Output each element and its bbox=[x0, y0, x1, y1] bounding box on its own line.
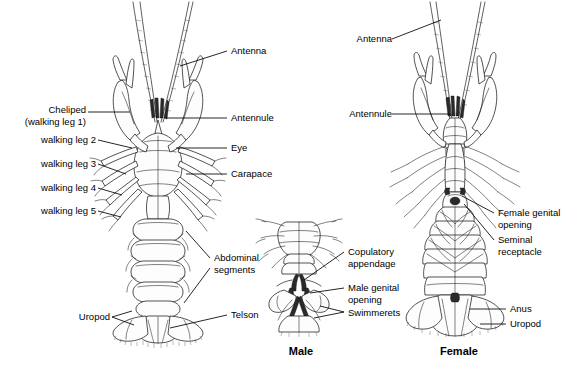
label-swimmerets: Swimmerets bbox=[348, 307, 400, 319]
label-copulatory-appendage-line1: Copulatory bbox=[348, 246, 396, 258]
leader-abdominal-segments bbox=[184, 231, 210, 303]
label-eye-dorsal: Eye bbox=[231, 142, 247, 154]
label-copulatory-appendage-line2: appendage bbox=[348, 258, 396, 270]
female-abdomen bbox=[423, 207, 488, 278]
male-ventral-diagram bbox=[256, 219, 342, 337]
label-male-genital-opening: Male genital opening bbox=[348, 282, 399, 305]
caption-female: Female bbox=[432, 345, 486, 357]
label-abdominal-segments-line2: segments bbox=[214, 264, 259, 276]
cheliped-right bbox=[168, 56, 203, 152]
dorsal-crayfish bbox=[90, 2, 226, 348]
label-walking-leg-5: walking leg 5 bbox=[0, 205, 96, 217]
label-telson: Telson bbox=[231, 309, 258, 321]
cheliped-left bbox=[113, 56, 148, 152]
abdominal-segments-dorsal bbox=[126, 219, 190, 317]
label-abdominal-segments-line1: Abdominal bbox=[214, 252, 259, 264]
female-tail-fan bbox=[406, 293, 504, 337]
label-walking-leg-2: walking leg 2 bbox=[0, 134, 96, 146]
leader-antenna-dorsal bbox=[180, 51, 227, 66]
leader-walking-leg-2 bbox=[98, 140, 132, 148]
female-ventral-diagram bbox=[390, 2, 520, 337]
label-seminal-receptacle-line1: Seminal bbox=[498, 234, 542, 246]
label-antenna-dorsal: Antenna bbox=[231, 45, 266, 57]
label-walking-leg-3: walking leg 3 bbox=[0, 158, 96, 170]
label-abdominal-segments: Abdominal segments bbox=[214, 252, 259, 275]
label-walking-leg-4: walking leg 4 bbox=[0, 182, 96, 194]
label-cheliped-line1: Cheliped bbox=[0, 104, 86, 116]
label-female-genital-opening: Female genital opening bbox=[498, 207, 560, 230]
label-uropod-dorsal: Uropod bbox=[30, 311, 110, 323]
label-seminal-receptacle: Seminal receptacle bbox=[498, 234, 542, 257]
label-cheliped: Cheliped (walking leg 1) bbox=[0, 104, 86, 127]
label-antenna-female: Antenna bbox=[330, 33, 392, 45]
figure-root: Cheliped (walking leg 1) walking leg 2 w… bbox=[0, 0, 579, 373]
tail-fan-dorsal bbox=[113, 316, 203, 348]
label-seminal-receptacle-line2: receptacle bbox=[498, 246, 542, 258]
label-uropod-female: Uropod bbox=[510, 318, 541, 330]
label-anus: Anus bbox=[510, 303, 532, 315]
label-male-genital-opening-line1: Male genital bbox=[348, 282, 399, 294]
label-carapace-dorsal: Carapace bbox=[231, 168, 272, 180]
label-cheliped-line2: (walking leg 1) bbox=[0, 116, 86, 128]
label-antennule-dorsal: Antennule bbox=[231, 112, 274, 124]
label-copulatory-appendage: Copulatory appendage bbox=[348, 246, 396, 269]
copulatory-appendage-art bbox=[277, 274, 321, 291]
male-sternum-plates bbox=[282, 254, 317, 274]
label-antennule-female: Antennule bbox=[322, 108, 392, 120]
label-male-genital-opening-line2: opening bbox=[348, 294, 399, 306]
leader-antenna-female bbox=[392, 20, 441, 39]
label-female-genital-opening-line2: opening bbox=[498, 219, 560, 231]
caption-male: Male bbox=[280, 345, 322, 357]
label-female-genital-opening-line1: Female genital bbox=[498, 207, 560, 219]
